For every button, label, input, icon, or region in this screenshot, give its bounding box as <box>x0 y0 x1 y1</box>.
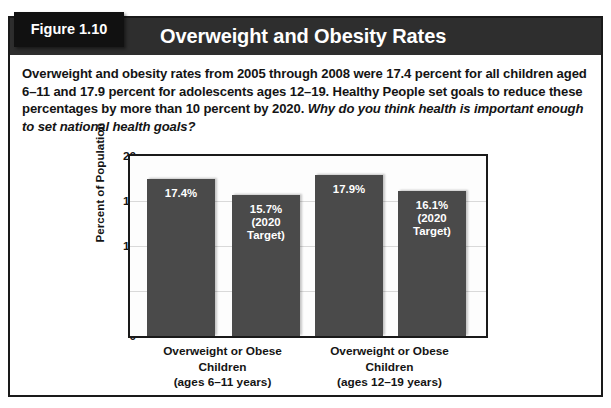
x-group-label: Overweight or Obese Children (ages 6–11 … <box>138 344 308 391</box>
bar-value-label: 16.1% (2020 Target) <box>398 199 466 238</box>
figure-caption: Overweight and obesity rates from 2005 t… <box>22 65 589 135</box>
figure-title: Overweight and Obesity Rates <box>160 25 446 48</box>
bar-chart: Percent of Population 05101520 17.4%15.7… <box>78 148 490 344</box>
x-group-label: Overweight or Obese Children (ages 12–19… <box>305 344 475 391</box>
bar: 15.7% (2020 Target) <box>232 195 300 336</box>
bar: 17.4% <box>147 179 215 336</box>
bar-value-label: 15.7% (2020 Target) <box>232 203 300 242</box>
bar: 17.9% <box>315 175 383 336</box>
y-axis-title: Percent of Population <box>93 115 106 250</box>
bar: 16.1% (2020 Target) <box>398 191 466 336</box>
bar-value-label: 17.4% <box>147 187 215 200</box>
bar-value-label: 17.9% <box>315 183 383 196</box>
figure-number-label: Figure 1.10 <box>14 12 124 47</box>
plot-area: 17.4%15.7% (2020 Target)17.9%16.1% (2020… <box>128 154 488 338</box>
figure-number-tab: Figure 1.10 <box>14 12 124 47</box>
